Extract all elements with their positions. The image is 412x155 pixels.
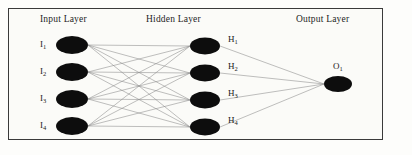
node-label-O1: O1 bbox=[333, 61, 343, 71]
edge-input-hidden bbox=[88, 46, 190, 126]
edge-input-hidden bbox=[88, 73, 190, 126]
node-input-I2 bbox=[56, 63, 88, 81]
layer-title-output: Output Layer bbox=[296, 14, 349, 24]
node-hidden-H3 bbox=[190, 92, 220, 109]
layer-title-hidden: Hidden Layer bbox=[146, 14, 201, 24]
node-input-I4 bbox=[56, 117, 88, 135]
node-label-I4: I4 bbox=[40, 120, 46, 130]
edge-input-hidden bbox=[88, 100, 190, 126]
node-label-I1: I1 bbox=[40, 39, 46, 49]
node-label-H2: H2 bbox=[228, 61, 238, 71]
node-label-H3: H3 bbox=[228, 88, 238, 98]
layer-title-input: Input Layer bbox=[40, 14, 87, 24]
node-label-I3: I3 bbox=[40, 93, 46, 103]
node-hidden-H4 bbox=[190, 119, 220, 136]
edge-input-hidden bbox=[88, 126, 190, 127]
node-label-H4: H4 bbox=[228, 115, 238, 125]
edges-input-to-hidden bbox=[88, 45, 190, 127]
node-output-O1 bbox=[324, 76, 352, 92]
node-label-I2: I2 bbox=[40, 66, 46, 76]
node-hidden-H2 bbox=[190, 65, 220, 82]
node-input-I1 bbox=[56, 36, 88, 54]
node-hidden-H1 bbox=[190, 38, 220, 55]
edge-input-hidden bbox=[88, 46, 190, 72]
neural-network-figure: Input Layer Hidden Layer Output Layer I1… bbox=[0, 0, 412, 155]
edge-input-hidden bbox=[88, 46, 190, 99]
edge-input-hidden bbox=[88, 45, 190, 46]
node-label-H1: H1 bbox=[228, 34, 238, 44]
node-input-I3 bbox=[56, 90, 88, 108]
network-nodes bbox=[56, 36, 352, 136]
